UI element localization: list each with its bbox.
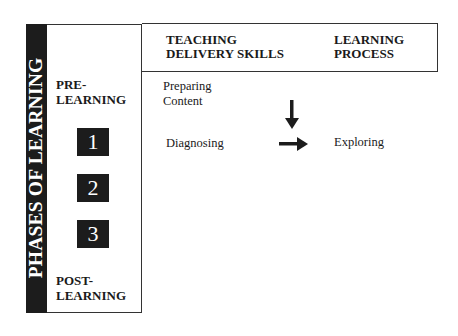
exploring-text: Exploring xyxy=(334,135,384,150)
post-learning-line2: LEARNING xyxy=(56,288,126,303)
phase-step-2: 2 xyxy=(77,174,109,202)
content-box-edge xyxy=(141,72,161,313)
teaching-header-line2: DELIVERY SKILLS xyxy=(166,47,284,61)
preparing-line1: Preparing xyxy=(163,79,212,94)
pre-learning-line2: LEARNING xyxy=(56,92,126,107)
post-learning-label: POST- LEARNING xyxy=(56,273,126,303)
learning-header-line1: LEARNING xyxy=(334,33,404,47)
diagnosing-text: Diagnosing xyxy=(166,136,224,151)
pre-learning-line1: PRE- xyxy=(56,77,126,92)
teaching-header: TEACHING DELIVERY SKILLS xyxy=(166,33,284,61)
phase-step-1: 1 xyxy=(77,128,109,156)
arrow-down-icon xyxy=(284,100,300,130)
phases-title: PHASES OF LEARNING xyxy=(25,58,47,279)
preparing-content-text: Preparing Content xyxy=(163,79,212,109)
teaching-header-line1: TEACHING xyxy=(166,33,284,47)
post-learning-line1: POST- xyxy=(56,273,126,288)
preparing-line2: Content xyxy=(163,94,212,109)
learning-header-line2: PROCESS xyxy=(334,47,404,61)
learning-header: LEARNING PROCESS xyxy=(334,33,404,61)
phase-step-3: 3 xyxy=(77,220,109,248)
arrow-right-icon xyxy=(279,136,309,152)
pre-learning-label: PRE- LEARNING xyxy=(56,77,126,107)
